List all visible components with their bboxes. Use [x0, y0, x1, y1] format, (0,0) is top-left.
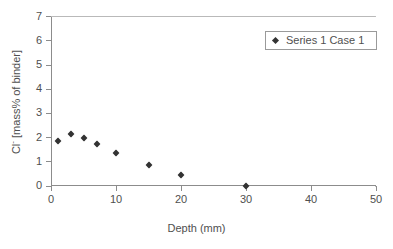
y-axis-tick: [46, 16, 51, 17]
legend-diamond-marker-icon: [272, 37, 279, 44]
y-axis-title-rest: [mass% of binder]: [10, 50, 22, 141]
y-axis-tick-label: 2: [20, 132, 42, 143]
y-axis-title-base: Cl: [10, 144, 22, 154]
x-axis-tick: [311, 186, 312, 191]
y-axis-tick-label: 1: [20, 156, 42, 167]
y-axis-tick-label: 7: [20, 11, 42, 22]
x-axis-tick-label: 40: [291, 194, 331, 205]
chart-legend: Series 1 Case 1: [265, 31, 377, 50]
y-axis-tick-label: 3: [20, 107, 42, 118]
y-axis-tick-label: 4: [20, 83, 42, 94]
legend-entry-label: Series 1 Case 1: [286, 35, 364, 46]
y-axis-title-superscript: -: [8, 141, 17, 144]
y-axis-title-wrapper: Cl- [mass% of binder]: [6, 17, 20, 187]
y-axis-title: Cl- [mass% of binder]: [10, 50, 22, 154]
y-axis-tick: [46, 113, 51, 114]
y-axis-tick: [46, 65, 51, 66]
y-axis-tick: [46, 161, 51, 162]
y-axis-tick: [46, 137, 51, 138]
x-axis-tick-label: 20: [161, 194, 201, 205]
x-axis-tick-label: 0: [31, 194, 71, 205]
x-axis-tick: [376, 186, 377, 191]
x-axis-title: Depth (mm): [0, 222, 393, 234]
x-axis-tick-label: 50: [356, 194, 393, 205]
y-axis-tick-label: 6: [20, 35, 42, 46]
scatter-chart: 01234567 01020304050 Cl- [mass% of binde…: [0, 0, 393, 249]
x-axis-tick-label: 10: [96, 194, 136, 205]
x-axis-tick: [181, 186, 182, 191]
x-axis-tick-label: 30: [226, 194, 266, 205]
y-axis-tick: [46, 89, 51, 90]
x-axis-tick: [51, 186, 52, 191]
x-axis-tick: [116, 186, 117, 191]
y-axis-tick-label: 0: [20, 180, 42, 191]
y-axis-tick-label: 5: [20, 59, 42, 70]
y-axis-tick: [46, 40, 51, 41]
